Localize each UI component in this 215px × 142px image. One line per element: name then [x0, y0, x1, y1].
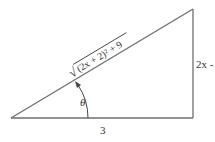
hypotenuse-side — [11, 9, 193, 118]
right-triangle-diagram: θ 3 2x - √ (2x + 2)² + 9 — [0, 0, 215, 142]
angle-label: θ — [80, 96, 86, 108]
hypotenuse-label-group: √ (2x + 2)² + 9 — [66, 32, 134, 81]
hypotenuse-label: (2x + 2)² + 9 — [75, 39, 125, 75]
base-label: 3 — [100, 124, 106, 136]
vertical-side-label: 2x - — [196, 58, 214, 70]
angle-arrowhead-icon — [75, 81, 81, 88]
